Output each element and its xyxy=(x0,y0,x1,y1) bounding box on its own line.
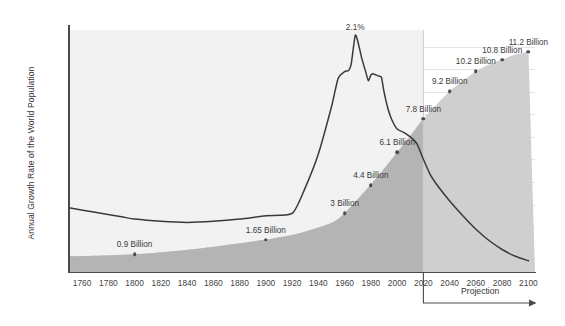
population-data-label: 9.2 Billion xyxy=(432,77,468,86)
population-data-point xyxy=(133,253,137,257)
projection-annotation: Projection xyxy=(69,272,539,326)
plot-area: 0.9 Billion1.65 Billion3 Billion4.4 Bill… xyxy=(69,30,535,272)
growth-rate-chart: Annual Growth Rate of the World Populati… xyxy=(0,0,565,326)
projection-bracket-icon xyxy=(69,272,539,326)
growth-rate-line xyxy=(69,35,528,261)
growth-rate-line-layer xyxy=(69,30,535,272)
peak-growth-annotation: 2.1% xyxy=(346,23,365,32)
population-data-label: 0.9 Billion xyxy=(117,240,153,249)
population-data-point xyxy=(422,117,426,121)
population-data-point xyxy=(369,184,373,188)
population-data-label: 10.8 Billion xyxy=(482,46,522,55)
population-data-label: 4.4 Billion xyxy=(353,171,389,180)
y-axis-title: Annual Growth Rate of the World Populati… xyxy=(26,28,36,278)
population-data-label: 6.1 Billion xyxy=(379,138,415,147)
population-data-label: 10.2 Billion xyxy=(456,57,496,66)
population-data-label: 1.65 Billion xyxy=(246,226,286,235)
population-data-point xyxy=(448,89,452,93)
population-data-point xyxy=(343,211,347,215)
population-data-label: 11.2 Billion xyxy=(509,38,548,47)
projection-label: Projection xyxy=(461,286,499,296)
population-data-point xyxy=(500,58,504,62)
population-data-point xyxy=(527,50,531,54)
population-data-label: 3 Billion xyxy=(330,199,359,208)
y-axis-line xyxy=(68,25,70,272)
population-data-point xyxy=(264,238,268,242)
population-data-point xyxy=(474,70,478,74)
population-data-point xyxy=(395,150,399,154)
population-data-label: 7.8 Billion xyxy=(406,105,442,114)
